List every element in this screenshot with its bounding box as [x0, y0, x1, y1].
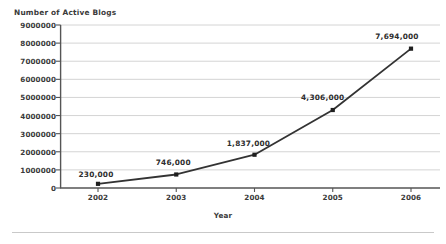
x-axis-title: Year	[0, 211, 446, 220]
x-axis-tick-label: 2006	[381, 193, 441, 202]
x-axis-tick-label: 2002	[68, 193, 128, 202]
chart-page: Number of Active Blogs 90000008000000700…	[0, 0, 446, 244]
data-point-label: 230,000	[56, 170, 136, 179]
data-point-label: 1,837,000	[209, 139, 289, 148]
x-axis-tick-label: 2004	[225, 193, 285, 202]
x-axis-tick-label: 2003	[146, 193, 206, 202]
data-point-label: 4,306,000	[283, 93, 363, 102]
data-point-label: 7,694,000	[357, 32, 437, 41]
x-axis-tick-labels: 20022003200420052006230,000746,0001,837,…	[0, 0, 446, 244]
data-point-label: 746,000	[133, 158, 213, 167]
x-axis-tick-label: 2005	[303, 193, 363, 202]
bottom-divider	[12, 232, 434, 233]
